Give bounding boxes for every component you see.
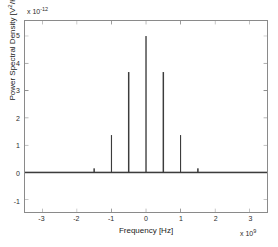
x-multiplier-mantissa: x 10 <box>240 230 253 237</box>
plot-area <box>24 20 268 213</box>
x-tick-label: -3 <box>32 215 50 222</box>
x-tick-label: 2 <box>207 215 225 222</box>
x-tick-label: -2 <box>67 215 85 222</box>
x-multiplier-exponent: 9 <box>253 228 256 234</box>
figure-canvas: x 10-12 -1012345 -3-2-10123 Frequency [H… <box>0 0 278 247</box>
x-tick-label: 0 <box>137 215 155 222</box>
y-multiplier-mantissa: x 10 <box>27 8 40 15</box>
x-tick-label: 1 <box>172 215 190 222</box>
y-axis-title-base: Power Spectral Density [V <box>8 8 17 101</box>
y-tick-label: 0 <box>4 170 20 177</box>
y-axis-title: Power Spectral Density [V2/Hz] <box>7 0 18 145</box>
y-axis-title-exponent: 2 <box>7 4 13 7</box>
y-axis-title-tail: /Hz] <box>8 0 17 4</box>
x-axis-title: Frequency [Hz] <box>24 226 268 235</box>
x-axis-multiplier-label: x 109 <box>240 228 256 237</box>
psd-spike-plot <box>25 21 267 212</box>
y-tick-label: -1 <box>4 197 20 204</box>
x-tick-label: 3 <box>242 215 260 222</box>
x-tick-label: -1 <box>102 215 120 222</box>
y-multiplier-exponent: -12 <box>40 6 48 12</box>
y-axis-multiplier-label: x 10-12 <box>27 6 48 15</box>
